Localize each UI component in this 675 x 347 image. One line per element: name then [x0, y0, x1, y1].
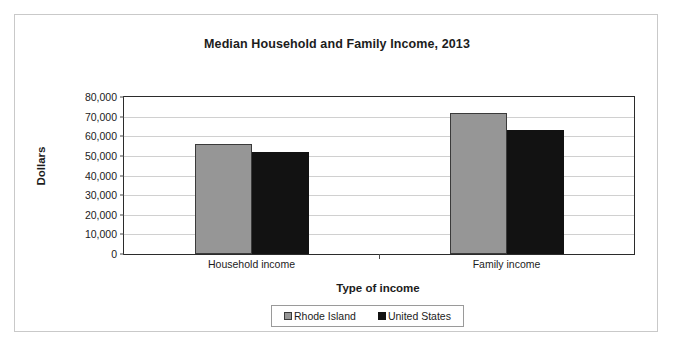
y-tick-mark — [120, 175, 124, 176]
y-axis-label: Dollars — [35, 121, 47, 211]
y-tick-label: 50,000 — [85, 150, 117, 162]
y-tick-label: 40,000 — [85, 170, 117, 182]
x-tick-label: Family income — [473, 258, 541, 270]
legend-label: United States — [388, 310, 451, 322]
y-tick-label: 0 — [111, 248, 117, 260]
plot-area: 010,00020,00030,00040,00050,00060,00070,… — [123, 96, 635, 255]
y-tick-label: 20,000 — [85, 209, 117, 221]
x-tick-mark — [379, 254, 380, 259]
chart-figure: Median Household and Family Income, 2013… — [14, 14, 658, 332]
bar — [252, 152, 309, 254]
y-tick-mark — [120, 116, 124, 117]
legend-label: Rhode Island — [294, 310, 356, 322]
x-tick-label: Household income — [208, 258, 295, 270]
y-tick-label: 80,000 — [85, 91, 117, 103]
y-tick-mark — [120, 97, 124, 98]
y-tick-label: 10,000 — [85, 228, 117, 240]
y-tick-label: 30,000 — [85, 189, 117, 201]
legend-swatch-icon — [284, 312, 292, 320]
y-tick-mark — [120, 214, 124, 215]
y-tick-mark — [120, 155, 124, 156]
chart-legend: Rhode IslandUnited States — [271, 305, 464, 327]
bar — [195, 144, 252, 254]
x-axis-label: Type of income — [123, 282, 633, 294]
gridline — [124, 117, 634, 118]
y-tick-mark — [120, 254, 124, 255]
bar — [450, 113, 507, 254]
bar — [507, 130, 564, 254]
chart-title: Median Household and Family Income, 2013 — [15, 37, 659, 51]
legend-swatch-icon — [378, 312, 386, 320]
y-tick-mark — [120, 234, 124, 235]
y-tick-mark — [120, 136, 124, 137]
y-tick-mark — [120, 195, 124, 196]
legend-item: United States — [378, 310, 451, 322]
legend-item: Rhode Island — [284, 310, 356, 322]
y-tick-label: 70,000 — [85, 111, 117, 123]
y-tick-label: 60,000 — [85, 130, 117, 142]
